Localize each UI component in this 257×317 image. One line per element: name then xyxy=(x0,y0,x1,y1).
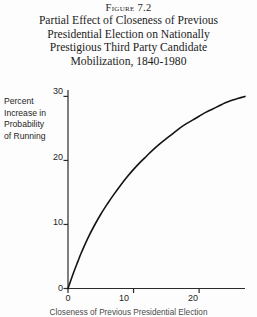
y-axis-label-line-2: Increase in xyxy=(4,108,46,120)
y-tick-label-20: 20 xyxy=(41,152,63,162)
y-axis-label-line-1: Percent xyxy=(4,96,46,108)
x-tick-label-10: 10 xyxy=(113,293,135,303)
x-tick-label-0: 0 xyxy=(57,293,79,303)
y-axis-ticks xyxy=(64,96,69,288)
y-tick-label-30: 30 xyxy=(41,86,63,96)
data-series-line xyxy=(68,96,245,288)
chart-svg xyxy=(0,0,257,317)
y-axis-label-line-4: of Running xyxy=(4,131,46,143)
y-axis-label-line-3: Probability xyxy=(4,119,46,131)
y-axis-label: Percent Increase in Probability of Runni… xyxy=(4,96,46,142)
figure-container: Figure 7.2 Partial Effect of Closeness o… xyxy=(0,0,257,317)
x-axis-label: Closeness of Previous Presidential Elect… xyxy=(0,308,257,317)
x-tick-label-20: 20 xyxy=(182,293,204,303)
y-tick-label-0: 0 xyxy=(41,283,63,293)
y-tick-label-10: 10 xyxy=(41,217,63,227)
chart-plot-area xyxy=(0,0,257,317)
